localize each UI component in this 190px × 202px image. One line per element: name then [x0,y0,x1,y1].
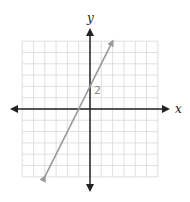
axes [12,30,168,190]
x-axis-label: x [175,102,182,116]
y-axis-label: y [86,11,94,25]
coordinate-plane: y x 2 [0,0,190,202]
intercept-label: 2 [94,84,101,97]
